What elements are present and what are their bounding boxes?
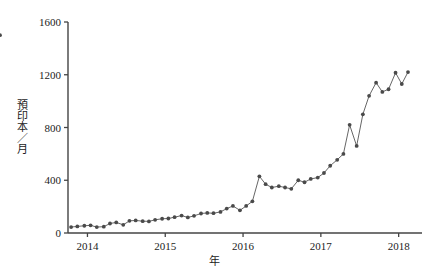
- preprints-per-month-chart: 預印本／月 040080012001600 201420152016201720…: [0, 0, 429, 275]
- x-tick-label: 2018: [388, 240, 411, 252]
- y-tick-label: 0: [56, 227, 62, 239]
- data-point: [328, 164, 332, 168]
- data-point: [270, 186, 274, 190]
- data-point: [128, 219, 132, 223]
- data-point: [121, 223, 125, 227]
- data-point: [102, 225, 106, 229]
- data-point: [89, 223, 93, 227]
- y-tick-label: 800: [45, 122, 62, 134]
- data-point: [374, 81, 378, 85]
- data-point: [147, 220, 151, 224]
- data-point: [264, 182, 268, 186]
- data-point: [355, 144, 359, 148]
- data-point: [387, 87, 391, 91]
- data-point: [180, 214, 184, 218]
- data-series: [0, 33, 410, 229]
- data-point: [361, 112, 365, 116]
- data-point: [173, 215, 177, 219]
- data-point: [0, 33, 2, 37]
- y-tick-label: 1200: [39, 69, 62, 81]
- data-point: [231, 204, 235, 208]
- data-point: [108, 222, 112, 226]
- data-point: [296, 178, 300, 182]
- x-tick-label: 2017: [310, 240, 333, 252]
- x-tick-label: 2015: [154, 240, 177, 252]
- data-point: [75, 225, 79, 229]
- data-point: [186, 216, 190, 220]
- data-point: [406, 70, 410, 74]
- data-point: [244, 204, 248, 208]
- data-point: [82, 224, 86, 228]
- data-point: [400, 82, 404, 86]
- x-axis-label: 年: [0, 252, 429, 268]
- data-point: [342, 152, 346, 156]
- y-axis: 040080012001600: [39, 16, 68, 239]
- y-tick-label: 400: [45, 174, 62, 186]
- data-point: [95, 225, 99, 229]
- data-point: [283, 186, 287, 190]
- data-point: [225, 207, 229, 211]
- data-point: [166, 217, 170, 221]
- data-point: [192, 214, 196, 218]
- data-point: [322, 171, 326, 175]
- data-point: [219, 210, 223, 214]
- data-point: [199, 212, 203, 216]
- data-point: [114, 221, 118, 225]
- data-point: [335, 158, 339, 162]
- data-point: [348, 123, 352, 127]
- data-point: [289, 187, 293, 191]
- data-point: [303, 180, 307, 184]
- data-point: [394, 71, 398, 75]
- data-point: [316, 176, 320, 180]
- data-point: [153, 218, 157, 222]
- data-point: [257, 174, 261, 178]
- y-tick-label: 1600: [39, 16, 62, 28]
- data-point: [367, 94, 371, 98]
- data-point: [212, 211, 216, 215]
- data-point: [141, 219, 145, 223]
- data-point: [69, 225, 73, 229]
- data-point: [205, 211, 209, 215]
- data-point: [250, 199, 254, 203]
- data-point: [238, 208, 242, 212]
- data-point: [277, 184, 281, 188]
- x-tick-label: 2016: [232, 240, 255, 252]
- chart-plot-area: 040080012001600 20142015201620172018: [0, 0, 429, 275]
- x-tick-label: 2014: [76, 240, 99, 252]
- x-axis: 20142015201620172018: [68, 233, 422, 252]
- data-point: [160, 217, 164, 221]
- data-point: [309, 177, 313, 181]
- data-point: [380, 90, 384, 94]
- data-point: [134, 219, 138, 223]
